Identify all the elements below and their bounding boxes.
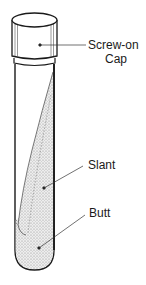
label-screw-on: Screw-on bbox=[88, 38, 139, 52]
screw-on-cap bbox=[12, 13, 57, 66]
label-cap: Cap bbox=[105, 52, 127, 66]
label-slant: Slant bbox=[88, 158, 115, 172]
label-butt: Butt bbox=[89, 206, 110, 220]
